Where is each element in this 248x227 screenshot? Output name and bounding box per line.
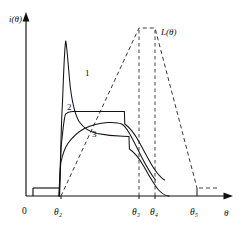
- labels-group: i(θ) θ 0 θ₂ θ₃ θ₄ θ₅ L(θ) 1 2 3: [9, 14, 229, 218]
- origin-label: 0: [22, 206, 27, 216]
- curve-2-path: [59, 111, 164, 196]
- envelope-label-L-theta: L(θ): [160, 27, 176, 37]
- envelope-curve-L-theta: [61, 28, 197, 196]
- curve-1-path: [60, 41, 170, 196]
- tick-label-theta-5: θ₅: [190, 207, 198, 217]
- baseline-markers-group: [33, 188, 218, 196]
- curve-label-1: 1: [85, 68, 90, 78]
- curve-label-3: 3: [92, 129, 97, 139]
- intensity-angle-chart: i(θ) θ 0 θ₂ θ₃ θ₄ θ₅ L(θ) 1 2 3: [0, 0, 248, 227]
- tick-label-theta-4: θ₄: [150, 207, 158, 217]
- axes-group: [23, 12, 233, 199]
- curve-3-path: [59, 122, 156, 196]
- tick-label-theta-3: θ₃: [132, 207, 140, 217]
- x-axis-arrowhead: [224, 193, 234, 200]
- y-axis-arrowhead: [23, 12, 30, 22]
- x-axis-label: θ: [224, 208, 229, 218]
- figure-container: i(θ) θ 0 θ₂ θ₃ θ₄ θ₅ L(θ) 1 2 3: [0, 0, 248, 227]
- curves-group: [59, 41, 169, 196]
- envelope-group: [61, 28, 197, 196]
- curve-label-2: 2: [67, 102, 72, 112]
- y-axis-label: i(θ): [9, 14, 22, 24]
- tick-label-theta-2: θ₂: [54, 207, 63, 217]
